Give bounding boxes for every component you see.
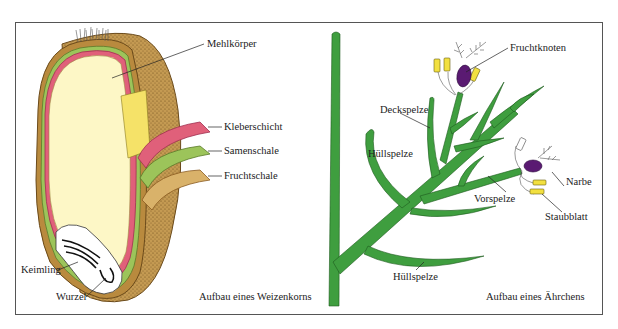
label-fruit-coat: Fruchtschale (224, 170, 278, 182)
label-embryo: Keimling (21, 264, 61, 276)
label-root: Wurzel (56, 291, 86, 303)
label-aleurone: Kleberschicht (224, 121, 282, 133)
anther-icon (444, 58, 450, 71)
label-endosperm: Mehlkörper (207, 38, 257, 50)
wheat-kernel-illustration (36, 27, 222, 302)
label-glume-lower: Hüllspelze (393, 271, 438, 283)
anther-icon (434, 59, 440, 72)
ovary-icon (524, 160, 542, 172)
spikelet-illustration (329, 32, 544, 306)
upper-flower (434, 42, 486, 95)
left-panel-title: Aufbau eines Weizenkorns (199, 291, 312, 302)
label-lemma: Deckspelze (380, 104, 428, 116)
lower-lemma (410, 206, 496, 217)
label-palea: Vorspelze (474, 193, 515, 205)
glume-upper (366, 129, 410, 208)
label-glume-upper: Hüllspelze (368, 148, 413, 160)
label-stigma: Narbe (566, 176, 592, 188)
ovary-icon (455, 64, 473, 88)
anther-empty-icon (516, 137, 527, 150)
lemma (427, 97, 440, 178)
anther-icon (533, 180, 546, 185)
lower-flower (515, 137, 560, 194)
label-stamen: Staubblatt (545, 211, 588, 223)
spikelet-axis (333, 108, 518, 274)
right-panel-title: Aufbau eines Ährchens (486, 291, 585, 302)
glume-lower (364, 246, 484, 267)
spikelet-leader-lines (400, 48, 564, 270)
label-seed-coat: Samenschale (224, 145, 279, 157)
anther-icon (530, 189, 544, 194)
label-ovary: Fruchtknoten (510, 42, 566, 54)
